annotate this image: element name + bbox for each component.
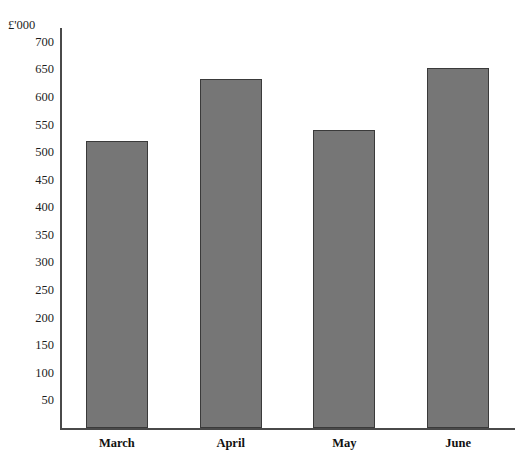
y-axis-tick-label: 400 [8, 201, 54, 213]
y-axis-tick-label: 250 [8, 284, 54, 296]
x-axis-tick-label: May [284, 436, 404, 451]
y-axis-tick-label: 450 [8, 174, 54, 186]
y-axis-tick-labels: 7006506005505004504003503002502001501005… [0, 0, 54, 465]
y-axis-tick-label: 100 [8, 367, 54, 379]
x-axis-line [60, 428, 515, 430]
y-axis-tick-label: 350 [8, 229, 54, 241]
x-axis-tick-label: June [398, 436, 518, 451]
y-axis-tick-label: 550 [8, 119, 54, 131]
bar [313, 130, 375, 428]
bar [427, 68, 489, 428]
x-axis-tick-label: March [57, 436, 177, 451]
chart-title [52, 0, 492, 3]
y-axis-tick-label: 300 [8, 256, 54, 268]
y-axis-tick-label: 650 [8, 63, 54, 75]
bar [200, 79, 262, 428]
bar [86, 141, 148, 428]
y-axis-tick-label: 150 [8, 339, 54, 351]
plot-area [60, 28, 515, 428]
y-axis-tick-label: 50 [8, 394, 54, 406]
y-axis-tick-label: 600 [8, 91, 54, 103]
bar-chart: £'000 7006506005505004504003503002502001… [0, 0, 528, 465]
y-axis-tick-label: 700 [8, 36, 54, 48]
y-axis-tick-label: 200 [8, 312, 54, 324]
x-axis-tick-label: April [171, 436, 291, 451]
y-axis-tick-label: 500 [8, 146, 54, 158]
